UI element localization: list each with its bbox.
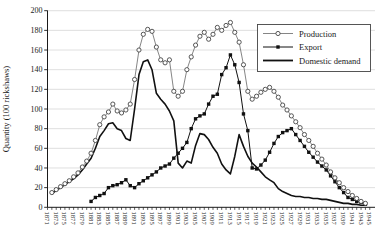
production-circle-marker: [180, 89, 184, 93]
export-square-marker: [142, 179, 145, 182]
y-tick-label: 140: [31, 65, 43, 74]
production-circle-marker: [224, 23, 228, 27]
production-circle-marker: [72, 175, 76, 179]
x-tick-label: 1909: [209, 212, 216, 226]
export-square-marker: [298, 139, 301, 142]
production-circle-marker: [220, 28, 224, 32]
production-circle-marker: [128, 102, 132, 106]
production-circle-marker: [76, 171, 80, 175]
export-square-marker: [338, 186, 341, 189]
x-tick-label: 1941: [349, 212, 356, 225]
x-tick-label: 1899: [166, 212, 173, 226]
production-circle-marker: [307, 138, 311, 142]
x-tick-label: 1929: [297, 212, 304, 226]
export-square-marker: [163, 164, 166, 167]
export-square-marker: [233, 63, 236, 66]
production-circle-marker: [189, 55, 193, 59]
x-tick-label: 1919: [253, 212, 260, 226]
x-tick-label: 1937: [331, 212, 338, 226]
export-square-marker: [181, 147, 184, 150]
y-tick-label: 40: [35, 164, 43, 173]
production-circle-marker: [207, 37, 211, 41]
legend-label: Production: [299, 29, 337, 39]
production-circle-marker: [320, 157, 324, 161]
export-square-marker: [172, 156, 175, 159]
export-square-marker: [133, 186, 136, 189]
production-circle-marker: [215, 25, 219, 29]
production-circle-marker: [281, 103, 285, 107]
x-tick-label: 1877: [70, 212, 77, 226]
production-circle-marker: [263, 87, 267, 91]
production-circle-marker: [333, 176, 337, 180]
y-tick-label: 100: [31, 105, 43, 114]
production-circle-marker: [211, 32, 215, 36]
production-circle-marker: [254, 94, 258, 98]
export-square-marker: [316, 160, 319, 163]
production-circle-marker: [80, 165, 84, 169]
y-tick-label: 20: [35, 183, 43, 192]
production-circle-marker: [346, 189, 350, 193]
export-square-marker: [89, 200, 92, 203]
x-tick-label: 1927: [288, 212, 295, 226]
production-circle-marker: [241, 63, 245, 67]
production-circle-marker: [276, 95, 280, 99]
export-square-marker: [277, 135, 280, 138]
production-circle-marker: [285, 108, 289, 112]
x-tick-label: 1915: [236, 212, 243, 226]
production-circle-marker: [328, 170, 332, 174]
export-square-marker: [129, 184, 132, 187]
legend-open-circle-icon: [276, 31, 280, 35]
x-tick-label: 1939: [340, 212, 347, 226]
legend-label: Export: [299, 42, 323, 52]
y-tick-label: 160: [31, 46, 43, 55]
production-circle-marker: [67, 179, 71, 183]
export-square-marker: [107, 186, 110, 189]
export-square-marker: [220, 73, 223, 76]
production-circle-marker: [163, 61, 167, 65]
legend-filled-square-icon: [276, 45, 279, 48]
x-tick-label: 1925: [279, 212, 286, 226]
export-square-marker: [159, 166, 162, 169]
production-circle-marker: [106, 110, 110, 114]
export-square-marker: [320, 164, 323, 167]
production-circle-marker: [246, 89, 250, 93]
export-square-marker: [250, 166, 253, 169]
export-square-marker: [281, 131, 284, 134]
production-circle-marker: [172, 89, 176, 93]
production-circle-marker: [198, 34, 202, 38]
export-square-marker: [185, 141, 188, 144]
export-square-marker: [325, 168, 328, 171]
export-square-marker: [207, 102, 210, 105]
export-square-marker: [246, 129, 249, 132]
export-square-marker: [211, 95, 214, 98]
x-tick-label: 1873: [53, 212, 60, 226]
legend-label: Domestic demand: [299, 56, 361, 66]
export-square-marker: [137, 182, 140, 185]
y-axis-title: Quantity (100 rickshaws): [1, 66, 11, 153]
y-axis-ticks: 020406080100120140160180200: [31, 6, 48, 212]
production-circle-marker: [228, 20, 232, 24]
export-square-marker: [351, 198, 354, 201]
production-circle-marker: [268, 85, 272, 89]
export-square-marker: [255, 167, 258, 170]
production-circle-marker: [63, 182, 67, 186]
x-tick-label: 1907: [201, 212, 208, 226]
export-square-marker: [176, 152, 179, 155]
x-tick-label: 1885: [105, 212, 112, 226]
export-square-marker: [333, 180, 336, 183]
production-circle-marker: [54, 188, 58, 192]
production-circle-marker: [115, 109, 119, 113]
production-circle-marker: [294, 120, 298, 124]
production-circle-marker: [324, 163, 328, 167]
x-tick-label: 1943: [358, 212, 365, 226]
export-square-marker: [203, 112, 206, 115]
export-square-marker: [237, 81, 240, 84]
production-circle-marker: [133, 77, 137, 81]
export-square-marker: [194, 117, 197, 120]
production-circle-marker: [124, 108, 128, 112]
y-tick-label: 80: [35, 124, 43, 133]
production-circle-marker: [315, 151, 319, 155]
production-circle-marker: [311, 144, 315, 148]
x-tick-label: 1917: [244, 212, 251, 226]
export-square-marker: [311, 155, 314, 158]
